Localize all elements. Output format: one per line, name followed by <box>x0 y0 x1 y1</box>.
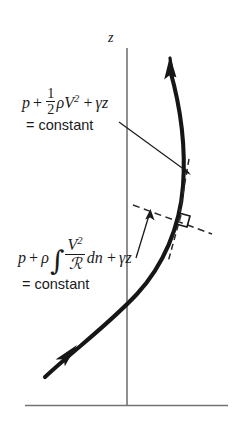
integral-sign: ∫ <box>50 244 64 276</box>
fraction-denominator: 2 <box>46 102 55 116</box>
exponent-two: 2 <box>77 235 82 246</box>
leader-line-upper <box>119 122 189 173</box>
fraction-numerator: 1 <box>46 86 55 100</box>
z-axis-label: z <box>108 30 113 46</box>
symbol-p: p <box>22 94 30 111</box>
symbol-z: z <box>102 94 108 111</box>
figure-canvas <box>0 0 235 423</box>
fraction-v-squared-over-R: V2ℛ <box>65 236 84 272</box>
exponent-two: 2 <box>74 93 79 104</box>
symbol-V: V <box>64 94 74 111</box>
symbol-rho: ρ <box>41 249 49 266</box>
operator-plus-2: + <box>83 94 92 111</box>
equation-along-streamline: p+12ρV2+γz = constant <box>22 86 108 134</box>
equation-along-streamline-expression: p+12ρV2+γz <box>22 86 108 116</box>
operator-plus-1: + <box>29 249 38 266</box>
differential-dn: dn <box>87 249 103 266</box>
symbol-script-R: ℛ <box>65 256 84 272</box>
symbol-V: V <box>67 236 77 253</box>
normal-direction-arrow <box>136 209 155 258</box>
operator-plus-2: + <box>107 249 116 266</box>
fraction-one-half: 12 <box>46 86 55 116</box>
equation-normal-to-streamline-expression: p+ρ∫V2ℛdn+γz <box>18 236 132 275</box>
equation-normal-to-streamline: p+ρ∫V2ℛdn+γz = constant <box>18 236 132 292</box>
operator-plus-1: + <box>33 94 42 111</box>
equation-normal-to-streamline-result: = constant <box>22 277 132 292</box>
symbol-z: z <box>125 249 131 266</box>
streamline-figure: z p+12ρV2+γz = constant p+ρ∫V2ℛdn+γz = c… <box>0 0 235 423</box>
fraction-numerator: V2 <box>65 236 84 253</box>
symbol-p: p <box>18 249 26 266</box>
equation-along-streamline-result: = constant <box>26 118 108 133</box>
